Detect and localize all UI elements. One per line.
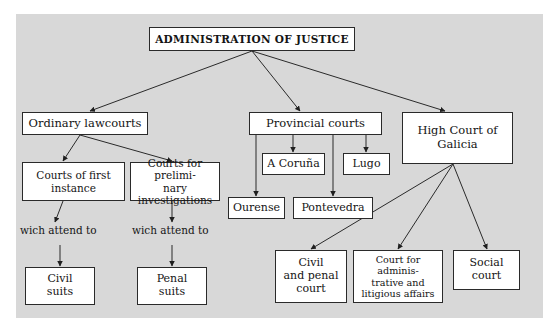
node-courts-for-preliminary-investigations[interactable]: Courts for prelimi- nary investigations <box>130 162 220 201</box>
node-civil-suits[interactable]: Civil suits <box>25 267 95 305</box>
node-courts-of-first-instance[interactable]: Courts of first instance <box>22 162 125 201</box>
diagram-page: ADMINISTRATION OF JUSTICE Ordinary lawco… <box>0 0 549 330</box>
node-administration-of-justice[interactable]: ADMINISTRATION OF JUSTICE <box>149 27 355 51</box>
node-penal-suits[interactable]: Penal suits <box>137 267 207 305</box>
edge-label-penal-branch: wich attend to <box>132 224 209 236</box>
node-high-court-of-galicia[interactable]: High Court of Galicia <box>402 112 513 164</box>
node-lugo[interactable]: Lugo <box>343 153 390 175</box>
node-ourense[interactable]: Ourense <box>228 197 285 219</box>
node-social-court[interactable]: Social court <box>453 250 520 290</box>
edge-label-civil-branch: wich attend to <box>20 224 97 236</box>
node-pontevedra[interactable]: Pontevedra <box>293 197 373 219</box>
node-civil-and-penal-court[interactable]: Civil and penal court <box>275 250 347 303</box>
node-a-coruna[interactable]: A Coruña <box>262 153 325 175</box>
node-ordinary-lawcourts[interactable]: Ordinary lawcourts <box>22 112 148 135</box>
node-court-for-administrative-and-litigious-affairs[interactable]: Court for adminis- trative and litigious… <box>353 250 443 303</box>
node-provincial-courts[interactable]: Provincial courts <box>249 112 382 135</box>
